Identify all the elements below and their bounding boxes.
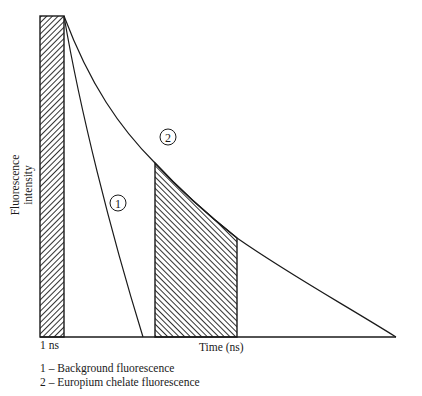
y-axis-label: Fluorescence intensity — [2, 120, 42, 250]
curve-2-marker: 2 — [160, 129, 176, 145]
x-axis-label: Time (ns) — [199, 341, 244, 353]
svg-text:2: 2 — [165, 131, 171, 145]
pulse-duration-label: 1 ns — [40, 339, 59, 351]
legend-item-background: 1 – Background fluorescence — [40, 361, 200, 375]
gated-measurement-window — [155, 163, 237, 337]
svg-text:1: 1 — [115, 197, 121, 211]
y-axis-label-line1: Fluorescence — [9, 155, 22, 216]
legend-item-europium: 2 – Europium chelate fluorescence — [40, 375, 200, 389]
excitation-pulse-bar — [40, 16, 64, 337]
curve-1-marker: 1 — [110, 195, 126, 211]
curve-background-fluorescence — [64, 16, 143, 337]
time-resolved-fluorescence-diagram: 1 2 — [0, 0, 422, 396]
y-axis-label-line2: intensity — [22, 155, 35, 216]
legend: 1 – Background fluorescence 2 – Europium… — [40, 361, 200, 389]
